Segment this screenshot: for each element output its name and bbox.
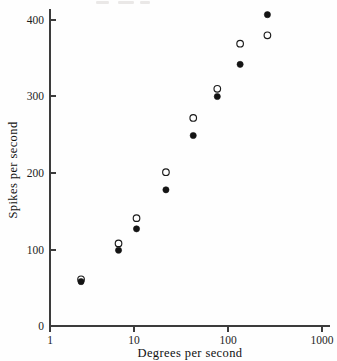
data-point-filled (264, 12, 270, 18)
data-point-filled (237, 61, 243, 67)
data-point-open (163, 169, 170, 176)
y-tick-label-300: 300 (27, 90, 45, 102)
data-point-filled (190, 132, 196, 138)
data-point-open (237, 40, 244, 47)
figure-container: 400 300 200 100 0 1 10 100 1000 Degrees … (0, 0, 337, 361)
x-axis-title: Degrees per second (137, 346, 242, 360)
data-point-filled (214, 93, 220, 99)
data-markers (78, 12, 271, 285)
x-tick-label-1000: 1000 (311, 334, 334, 346)
x-tick-label-10: 10 (128, 334, 140, 346)
y-axis-ticks (50, 20, 56, 250)
y-tick-label-0: 0 (38, 320, 44, 332)
data-point-open (133, 215, 140, 222)
y-tick-label-200: 200 (27, 167, 45, 179)
data-point-filled (78, 279, 84, 285)
x-tick-label-1: 1 (47, 334, 53, 346)
x-axis-ticks (50, 326, 322, 332)
y-tick-label-100: 100 (27, 244, 45, 256)
data-point-filled (133, 226, 139, 232)
scan-artifact (96, 1, 150, 4)
data-point-open (264, 32, 271, 39)
scatter-plot: 400 300 200 100 0 1 10 100 1000 Degrees … (0, 0, 337, 361)
x-tick-label-100: 100 (219, 334, 237, 346)
data-point-filled (115, 247, 121, 253)
data-point-filled (163, 187, 169, 193)
x-axis-tick-labels: 1 10 100 1000 (47, 334, 334, 346)
y-axis-title: Spikes per second (6, 121, 20, 218)
data-point-open (115, 240, 122, 247)
y-tick-label-400: 400 (27, 14, 45, 26)
y-axis-tick-labels: 400 300 200 100 0 (27, 14, 45, 332)
data-point-open (214, 86, 221, 93)
data-point-open (190, 115, 197, 122)
axis-lines (50, 9, 330, 326)
